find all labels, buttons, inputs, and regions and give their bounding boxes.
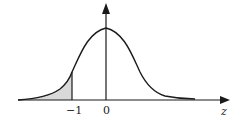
- normal-curve-diagram: −1 0 z: [0, 0, 237, 119]
- x-axis-label: z: [220, 105, 227, 118]
- tick-label-zero: 0: [103, 104, 110, 117]
- x-axis-arrow-icon: [220, 96, 230, 104]
- y-axis-arrow-icon: [102, 3, 110, 14]
- tick-label-minus-one: −1: [66, 104, 82, 117]
